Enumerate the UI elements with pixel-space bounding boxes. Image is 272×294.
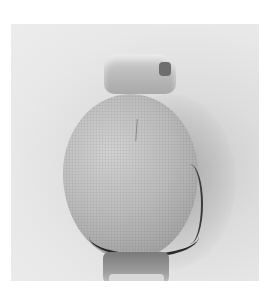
bottom-fold-highlight [109, 274, 164, 281]
top-knot [159, 62, 171, 76]
photograph [11, 24, 259, 281]
